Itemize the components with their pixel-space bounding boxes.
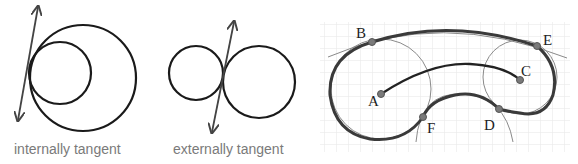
internally-tangent-diagram xyxy=(18,7,136,131)
small-circle xyxy=(29,42,91,104)
caption-internally-tangent: internally tangent xyxy=(14,141,121,157)
label-f: F xyxy=(427,120,435,136)
externally-tangent-diagram xyxy=(169,22,295,132)
tangent-circles-figure: B E C A F D xyxy=(0,0,578,164)
arc-construction-diagram: B E C A F D xyxy=(320,22,570,152)
label-a: A xyxy=(368,93,379,109)
large-circle xyxy=(30,25,136,131)
tangent-line-arrow xyxy=(212,22,234,132)
point-d xyxy=(496,106,503,113)
label-d: D xyxy=(484,117,495,133)
label-e: E xyxy=(543,32,552,48)
point-b xyxy=(369,39,376,46)
caption-externally-tangent: externally tangent xyxy=(173,141,284,157)
left-circle xyxy=(169,46,223,100)
grid-background xyxy=(320,22,570,152)
label-c: C xyxy=(521,63,531,79)
tangent-line-arrow xyxy=(18,7,38,120)
point-e xyxy=(534,43,541,50)
point-f xyxy=(420,114,427,121)
label-b: B xyxy=(356,25,366,41)
right-circle xyxy=(223,46,295,118)
